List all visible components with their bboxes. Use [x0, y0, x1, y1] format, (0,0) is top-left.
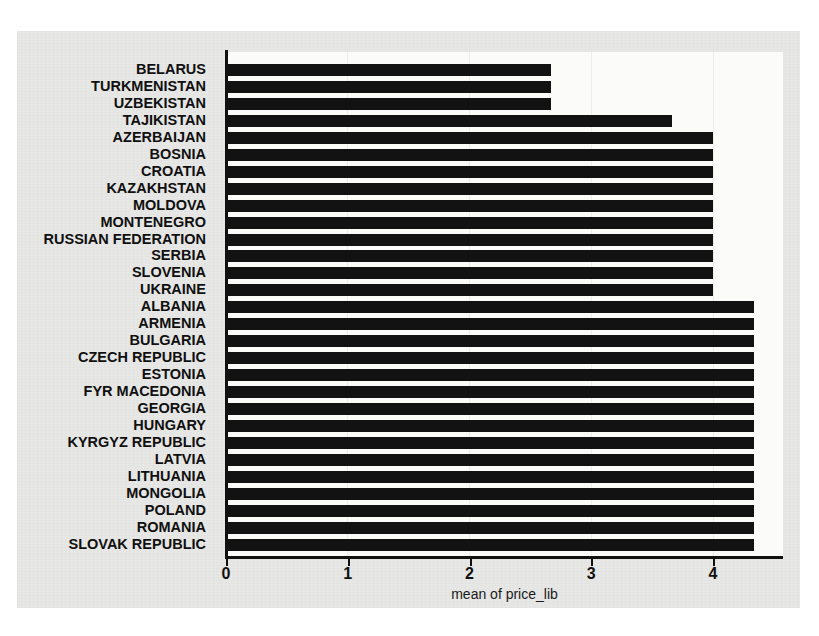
bar-row: MONGOLIA — [0, 486, 783, 503]
bar — [226, 166, 713, 178]
bar-row: MOLDOVA — [0, 198, 783, 215]
bar — [226, 488, 754, 500]
bar-row: HUNGARY — [0, 418, 783, 435]
bar — [226, 115, 672, 127]
category-label: AZERBAIJAN — [0, 130, 206, 147]
category-label: ALBANIA — [0, 299, 206, 316]
bar-row: FYR MACEDONIA — [0, 384, 783, 401]
bar-row: BELARUS — [0, 62, 783, 79]
bar — [226, 81, 551, 93]
bar-row: TURKMENISTAN — [0, 79, 783, 96]
bar-row: LATVIA — [0, 452, 783, 469]
bar — [226, 352, 754, 364]
category-label: ROMANIA — [0, 520, 206, 537]
bar — [226, 420, 754, 432]
category-label: ESTONIA — [0, 367, 206, 384]
category-label: TURKMENISTAN — [0, 79, 206, 96]
category-label: CZECH REPUBLIC — [0, 350, 206, 367]
bar — [226, 437, 754, 449]
bar — [226, 471, 754, 483]
bar — [226, 522, 754, 534]
bar-row: ESTONIA — [0, 367, 783, 384]
bar-row: MONTENEGRO — [0, 215, 783, 232]
x-tick-label: 2 — [450, 565, 490, 583]
category-label: ARMENIA — [0, 316, 206, 333]
bar-row: SLOVENIA — [0, 265, 783, 282]
bar — [226, 234, 713, 246]
category-label: SERBIA — [0, 248, 206, 265]
category-label: BULGARIA — [0, 333, 206, 350]
bar-row: RUSSIAN FEDERATION — [0, 232, 783, 249]
category-label: CROATIA — [0, 164, 206, 181]
bar — [226, 183, 713, 195]
bar — [226, 149, 713, 161]
category-label: KYRGYZ REPUBLIC — [0, 435, 206, 452]
category-label: GEORGIA — [0, 401, 206, 418]
x-tick-label: 4 — [693, 565, 733, 583]
bar-row: UKRAINE — [0, 282, 783, 299]
bar-row: SERBIA — [0, 248, 783, 265]
bar — [226, 386, 754, 398]
bar-row: CZECH REPUBLIC — [0, 350, 783, 367]
bar-row: AZERBAIJAN — [0, 130, 783, 147]
category-label: SLOVAK REPUBLIC — [0, 537, 206, 554]
bar-row: ARMENIA — [0, 316, 783, 333]
category-label: LATVIA — [0, 452, 206, 469]
x-axis-line — [226, 556, 783, 559]
bar-row: TAJIKISTAN — [0, 113, 783, 130]
bar — [226, 64, 551, 76]
bar — [226, 98, 551, 110]
bar — [226, 250, 713, 262]
category-label: MONGOLIA — [0, 486, 206, 503]
x-tick-label: 0 — [206, 565, 246, 583]
bar — [226, 335, 754, 347]
bar-row: BOSNIA — [0, 147, 783, 164]
bar-row: KAZAKHSTAN — [0, 181, 783, 198]
category-label: MONTENEGRO — [0, 215, 206, 232]
bar — [226, 301, 754, 313]
bar — [226, 539, 754, 551]
bar-row: LITHUANIA — [0, 469, 783, 486]
category-label: SLOVENIA — [0, 265, 206, 282]
bar — [226, 284, 713, 296]
bar-row: GEORGIA — [0, 401, 783, 418]
category-label: LITHUANIA — [0, 469, 206, 486]
bar-row: POLAND — [0, 503, 783, 520]
bar-row: SLOVAK REPUBLIC — [0, 537, 783, 554]
bar-row: UZBEKISTAN — [0, 96, 783, 113]
bar — [226, 200, 713, 212]
bar — [226, 403, 754, 415]
bar — [226, 267, 713, 279]
category-label: BOSNIA — [0, 147, 206, 164]
bar — [226, 217, 713, 229]
x-axis-title: mean of price_lib — [226, 586, 783, 602]
category-label: UZBEKISTAN — [0, 96, 206, 113]
bar-row: BULGARIA — [0, 333, 783, 350]
category-label: HUNGARY — [0, 418, 206, 435]
category-label: KAZAKHSTAN — [0, 181, 206, 198]
category-label: MOLDOVA — [0, 198, 206, 215]
category-label: FYR MACEDONIA — [0, 384, 206, 401]
category-label: UKRAINE — [0, 282, 206, 299]
category-label: BELARUS — [0, 62, 206, 79]
category-label: RUSSIAN FEDERATION — [0, 232, 206, 249]
chart-figure: BELARUSTURKMENISTANUZBEKISTANTAJIKISTANA… — [0, 0, 819, 636]
bar-row: ROMANIA — [0, 520, 783, 537]
bar — [226, 454, 754, 466]
bar — [226, 318, 754, 330]
bar — [226, 132, 713, 144]
category-label: POLAND — [0, 503, 206, 520]
bar-row: CROATIA — [0, 164, 783, 181]
x-tick-label: 3 — [571, 565, 611, 583]
bar — [226, 505, 754, 517]
bar-row: ALBANIA — [0, 299, 783, 316]
bar — [226, 369, 754, 381]
bar-row: KYRGYZ REPUBLIC — [0, 435, 783, 452]
x-tick-label: 1 — [328, 565, 368, 583]
category-label: TAJIKISTAN — [0, 113, 206, 130]
